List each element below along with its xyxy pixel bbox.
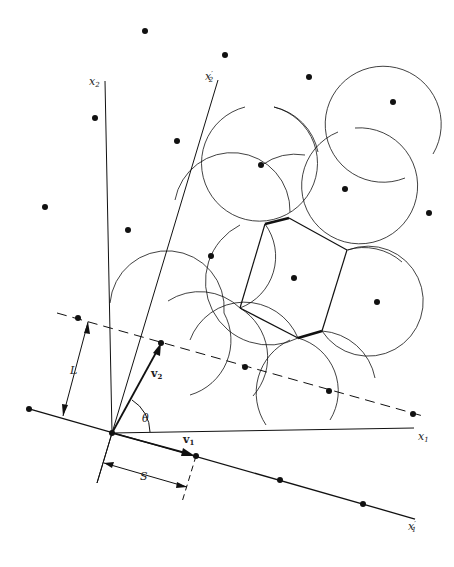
lattice-point	[326, 388, 332, 394]
lattice-point	[158, 340, 164, 346]
lattice-point	[142, 28, 148, 34]
lattice-point	[208, 253, 214, 259]
lattice-point	[277, 477, 283, 483]
x1-prime-axis	[30, 409, 415, 519]
lattice-point	[374, 299, 380, 305]
lattice-point	[109, 430, 115, 436]
x2-prime-axis	[97, 80, 218, 483]
lattice-point	[258, 162, 264, 168]
lattice-diagram: x2 x′2 x1 x′1 v1 v2 θ L S	[0, 0, 454, 567]
lattice-point	[222, 52, 228, 58]
arrowheads	[62, 322, 195, 488]
lattice-point	[242, 364, 248, 370]
lattice-point	[360, 501, 366, 507]
v1-vector	[112, 433, 190, 454]
x2-label: x2	[89, 75, 100, 89]
lattice-points	[26, 28, 432, 507]
theta-label: θ	[142, 412, 149, 425]
v1-label: v1	[182, 433, 194, 447]
lattice-point	[410, 411, 416, 417]
lattice-point	[75, 315, 81, 321]
lattice-point	[193, 453, 199, 459]
S-label: S	[140, 470, 148, 483]
v2-vector	[112, 349, 158, 433]
S-extension-right	[182, 456, 196, 502]
L-label: L	[69, 364, 77, 377]
lattice-point	[291, 275, 297, 281]
x2-prime-label: x′2	[205, 70, 214, 84]
x1-label: x1	[418, 430, 429, 444]
lattice-point	[426, 210, 432, 216]
lattice-point	[42, 204, 48, 210]
lattice-point	[26, 406, 32, 412]
lattice-point	[174, 138, 180, 144]
dashed-lattice-row	[57, 313, 423, 416]
x1-axis	[112, 428, 414, 433]
lattice-point	[125, 227, 131, 233]
S-extension-left	[97, 433, 112, 483]
v2-label: v2	[150, 367, 162, 381]
lattice-point	[92, 115, 98, 121]
lattice-point	[390, 99, 396, 105]
x2-axis	[105, 81, 112, 433]
x1-prime-label: x′1	[408, 520, 416, 534]
lattice-point	[342, 186, 348, 192]
lattice-point	[306, 74, 312, 80]
